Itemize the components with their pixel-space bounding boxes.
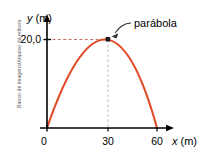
x-tick-label-30: 30 [102,135,114,147]
x-axis-title-unit: (m) [181,135,198,147]
x-axis-arrowhead [166,125,174,132]
x-axis-title: x(m) [171,135,197,147]
y-axis-title: y(m) [26,12,52,24]
parabola-callout-leader-line [115,23,131,33]
y-axis-title-unit: (m) [36,12,53,24]
chart-canvas: y(m) 20,0 0 30 60 x(m) parábola [0,0,200,155]
parabola-figure: Banco de imagens/Arquivo da editora y(m) [0,0,200,155]
parabola-callout-arrowhead [112,33,119,38]
y-axis-title-variable: y [26,12,34,24]
x-axis-title-variable: x [171,135,178,147]
x-tick-label-60: 60 [151,135,163,147]
y-tick-label-20: 20,0 [21,33,42,45]
x-tick-label-0: 0 [41,135,47,147]
parabola-curve [47,40,157,129]
vertex-point-marker [106,37,111,42]
parabola-callout-label: parábola [134,17,178,29]
